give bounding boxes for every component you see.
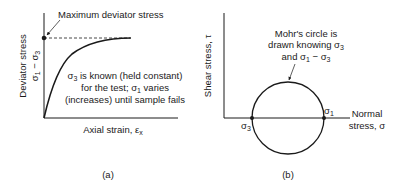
max-annotation-arrow: [47, 20, 60, 35]
sigma1-point: [322, 116, 326, 120]
svg-text:(increases) until sample fails: (increases) until sample fails: [65, 94, 185, 105]
svg-text:for the test; σ1 varies: for the test; σ1 varies: [81, 82, 169, 94]
svg-text:Normal: Normal: [352, 108, 383, 119]
panel-a-stress-strain-chart: Maximum deviator stress Deviator stress …: [17, 9, 185, 180]
y-axis-label: Deviator stress σ1 − σ3: [17, 34, 41, 98]
max-deviator-annotation: Maximum deviator stress: [58, 9, 164, 20]
normal-stress-axis-label: Normal stress, σ: [349, 108, 386, 131]
sigma3-label: σ3: [241, 120, 251, 132]
svg-text:Deviator stress: Deviator stress: [17, 34, 28, 98]
svg-text:Mohr's circle is: Mohr's circle is: [275, 28, 338, 39]
panel-b-mohr-circle-chart: σ3 σ1 Shear stress, τ Normal stress, σ M…: [202, 13, 385, 180]
sigma1-label: σ1: [324, 105, 334, 117]
panel-a-note: σ3 is known (held constant) for the test…: [65, 70, 185, 105]
sigma3-point: [250, 116, 254, 120]
svg-text:and σ1 − σ3: and σ1 − σ3: [282, 51, 331, 63]
figure: Maximum deviator stress Deviator stress …: [0, 0, 409, 190]
mohr-annotation-arrow: [289, 64, 295, 80]
svg-text:σ1 − σ3: σ1 − σ3: [29, 51, 41, 81]
svg-text:σ3 is known (held constant): σ3 is known (held constant): [68, 70, 183, 82]
svg-text:drawn knowing σ3: drawn knowing σ3: [268, 39, 344, 51]
shear-stress-axis-label: Shear stress, τ: [202, 35, 213, 98]
caption-b: (b): [282, 169, 294, 180]
x-axis-label: Axial strain, εx: [83, 124, 143, 136]
mohr-note: Mohr's circle is drawn knowing σ3 and σ1…: [268, 28, 344, 63]
max-deviator-point: [42, 36, 47, 41]
svg-text:stress, σ: stress, σ: [349, 120, 386, 131]
caption-a: (a): [102, 169, 114, 180]
